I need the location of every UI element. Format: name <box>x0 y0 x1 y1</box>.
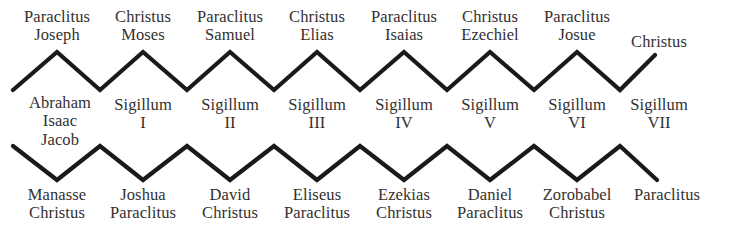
top-label-7-line1: Paraclitus <box>522 8 632 26</box>
bottom-end-label: Paraclitus <box>612 186 722 204</box>
lower-zigzag-line <box>13 146 657 180</box>
bottom-end-label-text: Paraclitus <box>612 186 722 204</box>
zigzag-seals-diagram: Paraclitus Joseph Christus Moses Paracli… <box>0 0 743 241</box>
top-end-label-text: Christus <box>604 33 714 51</box>
seal-label-7-line1: Sigillum <box>604 96 714 114</box>
upper-zigzag-line <box>13 52 655 90</box>
bottom-label-7-line2: Christus <box>518 204 636 222</box>
seal-label-7-line2: VII <box>604 114 714 132</box>
top-end-label: Christus <box>604 33 714 51</box>
seal-label-7: Sigillum VII <box>604 96 714 133</box>
patriarchs-line3: Jacob <box>5 131 115 149</box>
